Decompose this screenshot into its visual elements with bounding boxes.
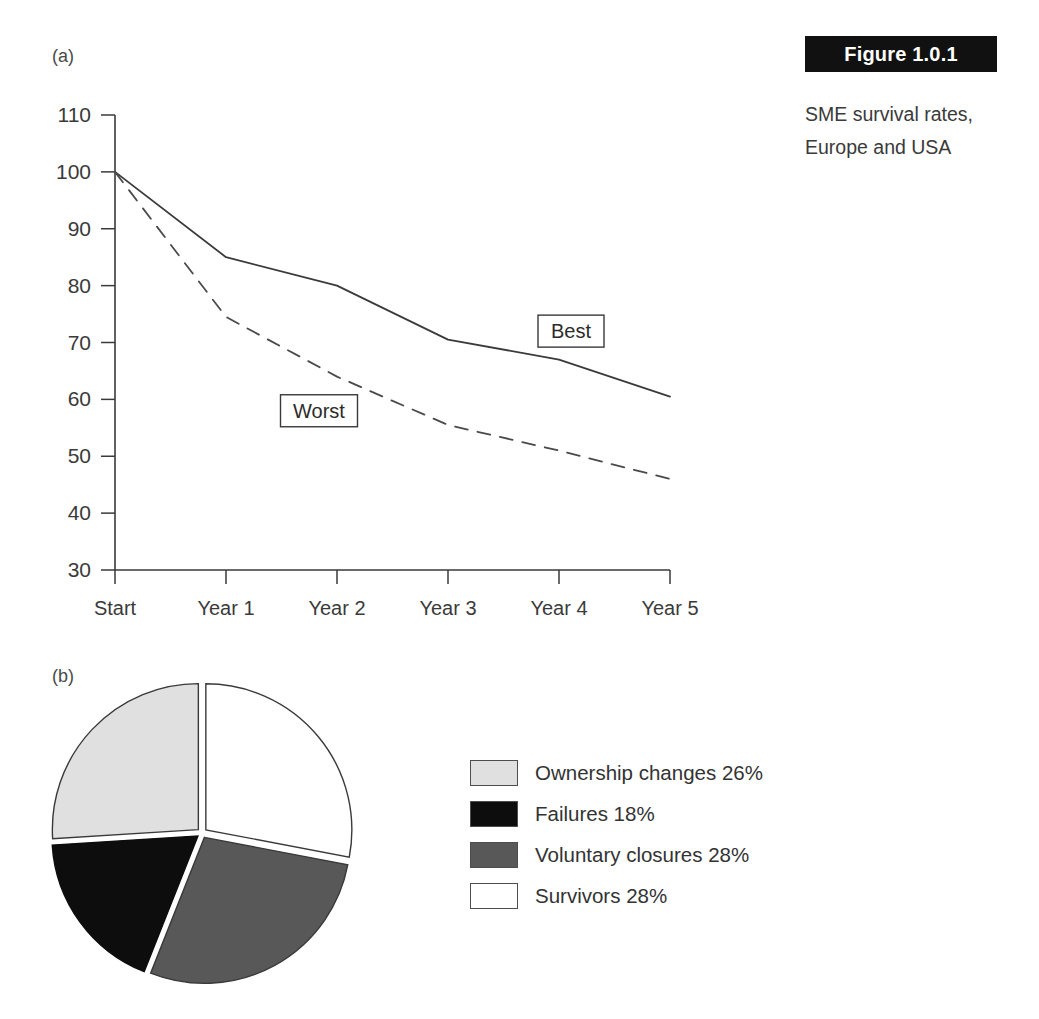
y-axis-tick-labels: 11010090807060504030 [56,103,91,581]
legend-color-swatch [470,883,518,909]
legend-item-label: Survivors 28% [535,884,667,908]
legend-item: Voluntary closures 28% [470,834,763,875]
pie-slice-ownership-changes [52,684,198,839]
series-annotation-best: Best [538,315,604,347]
legend-item: Failures 18% [470,793,763,834]
business-outcomes-pie-chart [30,672,390,1002]
legend-color-swatch [470,801,518,827]
y-axis-tick-label: 100 [56,160,91,183]
y-axis-tick-marks [101,115,115,570]
series-line-best [115,172,670,397]
x-axis-tick-marks [115,570,670,584]
legend-item: Survivors 28% [470,875,763,916]
x-axis-tick-label: Year 1 [197,597,254,619]
x-axis-tick-label: Year 4 [530,597,587,619]
figure-number-badge: Figure 1.0.1 [805,36,997,72]
legend-item-label: Ownership changes 26% [535,761,763,785]
x-axis-tick-label: Year 5 [641,597,698,619]
annotation-text: Worst [293,400,345,422]
figure-page: Figure 1.0.1 SME survival rates, Europe … [0,0,1039,1019]
legend-item-label: Voluntary closures 28% [535,843,749,867]
x-axis-tick-label: Year 3 [419,597,476,619]
x-axis-tick-label: Start [94,597,137,619]
figure-caption-line-1: SME survival rates, [805,98,1020,131]
y-axis-tick-label: 90 [68,217,91,240]
y-axis-tick-label: 50 [68,444,91,467]
y-axis-tick-label: 110 [58,103,91,126]
legend-color-swatch [470,760,518,786]
y-axis-tick-label: 30 [68,558,91,581]
figure-caption: SME survival rates, Europe and USA [805,98,1020,164]
series-annotation-worst: Worst [281,395,358,427]
x-axis-tick-label: Year 2 [308,597,365,619]
panel-label-a: (a) [52,46,74,67]
pie-slices [52,684,352,984]
pie-chart-legend: Ownership changes 26%Failures 18%Volunta… [470,752,763,916]
y-axis-tick-label: 70 [68,331,91,354]
figure-caption-line-2: Europe and USA [805,131,1020,164]
y-axis-tick-label: 80 [68,274,91,297]
series-annotation-labels: BestWorst [281,315,605,427]
pie-slice-survivors [206,684,352,857]
legend-item-label: Failures 18% [535,802,655,826]
figure-number-text: Figure 1.0.1 [844,43,958,66]
annotation-text: Best [551,320,591,342]
legend-color-swatch [470,842,518,868]
legend-item: Ownership changes 26% [470,752,763,793]
x-axis-tick-labels: StartYear 1Year 2Year 3Year 4Year 5 [94,597,699,619]
survival-line-chart: 11010090807060504030 StartYear 1Year 2Ye… [0,80,760,640]
y-axis-tick-label: 60 [68,387,91,410]
y-axis-tick-label: 40 [68,501,91,524]
